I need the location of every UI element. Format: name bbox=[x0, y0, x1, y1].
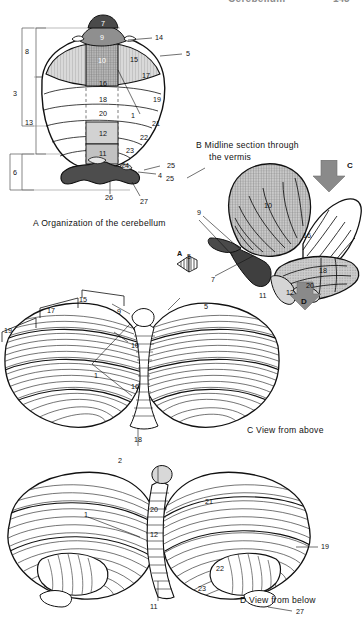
label-a-17: 17 bbox=[142, 72, 150, 79]
label-d-12: 12 bbox=[150, 531, 158, 538]
running-head-page-number: 143 bbox=[333, 0, 350, 4]
label-c-16: 16 bbox=[131, 383, 139, 390]
panel-b-caption-line1: B Midline section through bbox=[196, 140, 299, 151]
label-d-2: 2 bbox=[118, 457, 122, 464]
label-d-23: 23 bbox=[198, 585, 206, 592]
panel-c-drawing bbox=[0, 288, 290, 448]
label-b-25: 25 bbox=[166, 175, 174, 182]
panel-d-drawing bbox=[0, 455, 330, 615]
label-a-13: 13 bbox=[25, 119, 33, 126]
label-d-27: 27 bbox=[296, 608, 304, 615]
label-c-19: 19 bbox=[4, 327, 12, 334]
label-c-10: 10 bbox=[131, 342, 139, 349]
label-b-5: 5 bbox=[187, 253, 191, 260]
label-a-10: 10 bbox=[98, 57, 106, 64]
running-head-title: Cerebellum bbox=[228, 0, 285, 4]
label-c-9: 9 bbox=[117, 308, 121, 315]
label-c-5: 5 bbox=[204, 303, 208, 310]
label-c-1: 1 bbox=[94, 372, 98, 379]
label-a-7: 7 bbox=[101, 20, 105, 27]
label-b-arrow-d: D bbox=[301, 298, 307, 306]
label-d-20: 20 bbox=[150, 506, 158, 513]
label-b-16: 16 bbox=[303, 232, 311, 239]
label-b-20: 20 bbox=[306, 282, 314, 289]
panel-c-caption: C View from above bbox=[247, 425, 324, 436]
label-a-3: 3 bbox=[13, 90, 17, 97]
label-d-19: 19 bbox=[321, 543, 329, 550]
label-a-6: 6 bbox=[13, 169, 17, 176]
running-head: Cerebellum 143 bbox=[0, 0, 363, 8]
label-a-4: 4 bbox=[158, 172, 162, 179]
label-c-18: 18 bbox=[134, 436, 142, 443]
label-d-1: 1 bbox=[84, 511, 88, 518]
label-a-20: 20 bbox=[99, 110, 107, 117]
label-a-19: 19 bbox=[153, 96, 161, 103]
label-a-12: 12 bbox=[99, 130, 107, 137]
label-a-15: 15 bbox=[130, 56, 138, 63]
label-a-16: 16 bbox=[99, 80, 107, 87]
label-b-7: 7 bbox=[211, 276, 215, 283]
label-a-1: 1 bbox=[131, 112, 135, 119]
label-a-21: 21 bbox=[152, 120, 160, 127]
label-a-8: 8 bbox=[25, 48, 29, 55]
label-a-27: 27 bbox=[140, 198, 148, 205]
label-a-24: 24 bbox=[121, 162, 129, 169]
label-b-9: 9 bbox=[197, 209, 201, 216]
label-c-17: 17 bbox=[47, 307, 55, 314]
label-a-25: 25 bbox=[167, 162, 175, 169]
label-b-10: 10 bbox=[264, 202, 272, 209]
label-b-arrow-a: A bbox=[177, 250, 182, 257]
label-a-9: 9 bbox=[100, 34, 104, 41]
label-a-14: 14 bbox=[155, 34, 163, 41]
label-d-21: 21 bbox=[205, 498, 213, 505]
label-b-arrow-c: C bbox=[347, 162, 353, 170]
panel-d-figure: 2 1 20 12 11 21 19 22 23 27 bbox=[0, 455, 330, 615]
label-c-15: 15 bbox=[79, 296, 87, 303]
label-a-5: 5 bbox=[186, 50, 190, 57]
panel-d-caption: D View from below bbox=[240, 595, 316, 606]
textbook-page: Cerebellum 143 bbox=[0, 0, 363, 622]
label-b-18: 18 bbox=[319, 267, 327, 274]
panel-c-figure: 19 17 15 9 5 10 1 16 18 bbox=[0, 288, 290, 448]
label-d-22: 22 bbox=[216, 565, 224, 572]
label-a-22: 22 bbox=[140, 134, 148, 141]
label-a-18: 18 bbox=[99, 96, 107, 103]
label-a-23: 23 bbox=[126, 147, 134, 154]
label-a-26: 26 bbox=[105, 194, 113, 201]
panel-a-caption: A Organization of the cerebellum bbox=[33, 218, 166, 229]
label-a-11: 11 bbox=[99, 150, 106, 157]
label-d-11: 11 bbox=[150, 603, 157, 610]
